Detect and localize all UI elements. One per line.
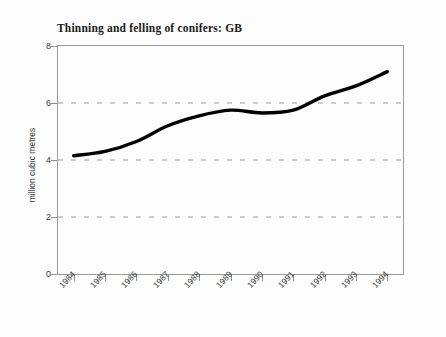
gridlines-group	[58, 103, 403, 217]
x-axis-tick-labels: 1984198519861987198819891990199119921993…	[57, 283, 404, 333]
y-tick-label: 2	[29, 212, 51, 222]
y-axis-tick-labels: 02468	[29, 45, 51, 275]
y-tick-label: 8	[29, 41, 51, 51]
y-tick-label: 4	[29, 155, 51, 165]
chart-title: Thinning and felling of conifers: GB	[57, 22, 242, 34]
plot-svg	[58, 46, 403, 274]
data-series-group	[74, 72, 388, 156]
y-tick-label: 0	[29, 269, 51, 279]
chart-figure: Thinning and felling of conifers: GB mil…	[0, 0, 446, 337]
plot-area	[57, 45, 404, 275]
series-line	[74, 72, 388, 156]
y-tick-label: 6	[29, 98, 51, 108]
